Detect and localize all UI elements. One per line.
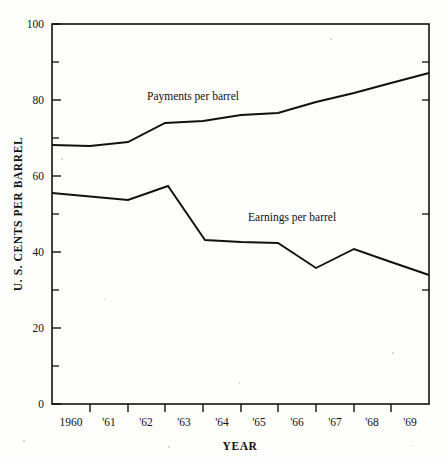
line-chart: 100 80 60 40 20 0 1960 '61 '62 '63 '64 '… bbox=[0, 0, 447, 463]
x-tick-label-1967: '67 bbox=[328, 416, 342, 428]
series-line-earnings bbox=[52, 186, 429, 275]
x-tick-label-1961: '61 bbox=[102, 416, 116, 428]
y-tick-label-40: 40 bbox=[33, 246, 45, 258]
y-tick-label-80: 80 bbox=[33, 94, 45, 106]
x-tick-label-1966: '66 bbox=[290, 416, 304, 428]
y-tick-label-0: 0 bbox=[38, 398, 44, 410]
x-tick-label-1964: '64 bbox=[215, 416, 229, 428]
y-axis-title: U. S. CENTS PER BARREL bbox=[12, 137, 24, 291]
series-line-payments bbox=[52, 73, 429, 146]
y-tick-label-20: 20 bbox=[33, 322, 45, 334]
x-axis-ticks bbox=[90, 404, 391, 412]
x-axis-title: YEAR bbox=[223, 440, 258, 452]
y-axis-minor-ticks bbox=[52, 62, 59, 366]
y-axis-right-ticks bbox=[422, 62, 429, 290]
x-tick-label-1963: '63 bbox=[177, 416, 191, 428]
series-label-payments: Payments per barrel bbox=[147, 90, 239, 103]
y-tick-label-100: 100 bbox=[27, 18, 45, 30]
plot-frame bbox=[52, 24, 429, 404]
series-label-earnings: Earnings per barrel bbox=[248, 211, 336, 224]
x-tick-label-1962: '62 bbox=[139, 416, 153, 428]
x-tick-label-1960: 1960 bbox=[60, 416, 83, 428]
x-tick-label-1968: '68 bbox=[365, 416, 379, 428]
x-tick-label-1969: '69 bbox=[403, 416, 417, 428]
x-tick-label-1965: '65 bbox=[252, 416, 266, 428]
y-tick-label-60: 60 bbox=[33, 170, 45, 182]
chart-figure: 100 80 60 40 20 0 1960 '61 '62 '63 '64 '… bbox=[0, 0, 447, 463]
